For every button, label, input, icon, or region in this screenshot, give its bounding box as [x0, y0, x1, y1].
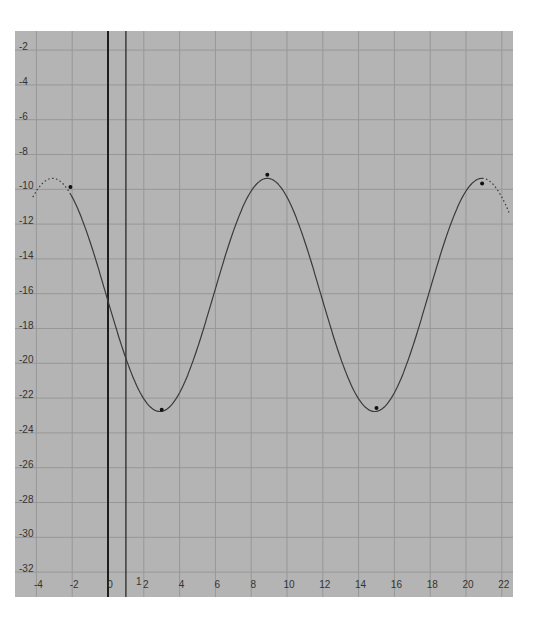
chart: 1 -2-4-6-8-10-12-14-16-18-20-22-24-26-28…: [0, 0, 533, 617]
y-tick-label: -14: [19, 250, 34, 261]
y-tick-label: -22: [19, 389, 34, 400]
peak-point: [480, 182, 484, 186]
y-tick-label: -18: [19, 320, 34, 331]
peak-point: [265, 173, 269, 177]
y-tick-label: -4: [19, 76, 28, 87]
y-tick-label: -16: [19, 285, 34, 296]
y-tick-label: -12: [19, 215, 34, 226]
trough-point: [160, 408, 164, 412]
peak-point: [68, 185, 72, 189]
y-tick-label: -28: [19, 494, 34, 505]
y-tick-label: -8: [19, 146, 28, 157]
x-tick-label: 12: [319, 579, 331, 590]
x-tick-label: 22: [498, 579, 510, 590]
marker-label: 1: [136, 576, 142, 587]
x-tick-label: -2: [70, 579, 79, 590]
y-tick-label: -2: [19, 41, 28, 52]
x-tick-label: 0: [107, 579, 113, 590]
x-tick-label: 18: [427, 579, 439, 590]
x-tick-label: 4: [179, 579, 185, 590]
x-tick-label: 2: [143, 579, 149, 590]
y-tick-label: -24: [19, 424, 34, 435]
x-tick-label: 16: [391, 579, 403, 590]
trough-point: [375, 406, 379, 410]
plot-area: [15, 31, 513, 597]
x-tick-label: 6: [215, 579, 221, 590]
x-tick-label: 14: [355, 579, 367, 590]
y-tick-label: -20: [19, 354, 34, 365]
y-tick-label: -6: [19, 111, 28, 122]
x-tick-label: 8: [250, 579, 256, 590]
y-tick-label: -32: [19, 563, 34, 574]
y-tick-label: -30: [19, 528, 34, 539]
y-tick-label: -26: [19, 459, 34, 470]
x-tick-label: 10: [283, 579, 295, 590]
x-tick-label: 20: [462, 579, 474, 590]
y-tick-label: -10: [19, 180, 34, 191]
x-tick-label: -4: [34, 579, 43, 590]
